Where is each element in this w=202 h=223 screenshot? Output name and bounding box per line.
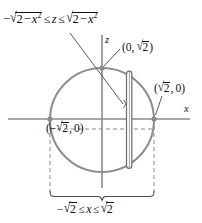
leq-symbol-4: ≤ bbox=[91, 203, 100, 215]
leader-line-point-top bbox=[104, 49, 120, 66]
label-point-right: (√2, 0) bbox=[154, 82, 185, 95]
radical-body-left: 2 − x2 bbox=[15, 12, 42, 26]
radical-sign-icon: √ bbox=[158, 81, 164, 95]
label-point-left: (−√2, 0) bbox=[46, 122, 84, 135]
radical-bottom-right: √2 bbox=[101, 202, 114, 215]
label-z-range-inequality: −√2 − x2≤z≤√2 − x2 bbox=[3, 12, 98, 26]
label-point-right-close: , 0) bbox=[170, 82, 185, 94]
radical-body-right: 2 − x2 bbox=[72, 12, 99, 26]
point-dot-left bbox=[47, 116, 52, 121]
x-axis-label: x bbox=[184, 104, 189, 115]
radical-point-left: √2 bbox=[56, 122, 69, 135]
leader-bracket-strip bbox=[124, 100, 127, 108]
label-point-left-open: (− bbox=[46, 122, 56, 134]
leader-line-top-inequality bbox=[70, 33, 123, 104]
leq-symbol-3: ≤ bbox=[77, 203, 86, 215]
radical-sign-icon: √ bbox=[10, 11, 17, 26]
label-z-range-minus: − bbox=[3, 12, 10, 26]
radical-point-right: √2 bbox=[158, 82, 171, 95]
leq-symbol-2: ≤ bbox=[57, 12, 67, 26]
label-point-top-close: ) bbox=[149, 41, 153, 53]
variable-z: z bbox=[52, 12, 57, 26]
label-x-range-minus: − bbox=[57, 202, 64, 216]
radical-point-top: √2 bbox=[137, 41, 150, 54]
radical-sign-icon: √ bbox=[101, 201, 108, 215]
figure-container: −√2 − x2≤z≤√2 − x2 z x (0, √2) (√2, 0) (… bbox=[0, 0, 202, 223]
radical-left: √2 − x2 bbox=[10, 12, 42, 26]
radical-sign-icon: √ bbox=[56, 121, 62, 135]
math-figure-graphic bbox=[0, 0, 202, 223]
point-dot-right bbox=[151, 116, 156, 121]
leader-line-point-right bbox=[156, 96, 163, 115]
label-point-top: (0, √2) bbox=[122, 41, 153, 54]
radical-sign-icon: √ bbox=[64, 201, 71, 215]
label-point-top-open: (0, bbox=[122, 41, 137, 53]
radical-sign-icon: √ bbox=[66, 11, 73, 26]
point-dot-top bbox=[99, 65, 104, 70]
label-x-range-inequality: −√2≤x≤√2 bbox=[57, 202, 114, 215]
radical-sign-icon: √ bbox=[137, 40, 143, 54]
leq-symbol-1: ≤ bbox=[42, 12, 52, 26]
radical-bottom-left: √2 bbox=[64, 202, 77, 215]
label-point-left-close: , 0) bbox=[69, 122, 84, 134]
z-axis-label: z bbox=[105, 35, 109, 46]
radical-right: √2 − x2 bbox=[66, 12, 98, 26]
